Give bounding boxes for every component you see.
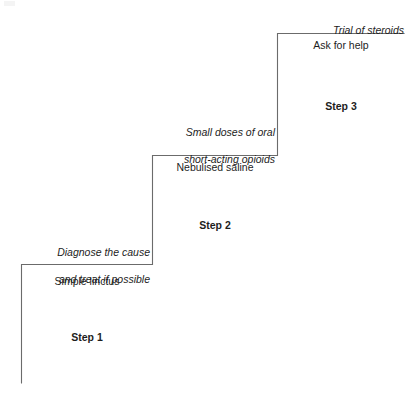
step-3-label: Step 3: [278, 100, 404, 114]
diagram-canvas: Diagnose the cause and treat if possible…: [0, 0, 417, 395]
step-3-group: Trial of steroids Ask for help Step 3: [0, 0, 417, 395]
step-3-treatment: Ask for help: [278, 39, 404, 53]
step-3-italic-note-line-1: Trial of steroids: [333, 24, 404, 36]
